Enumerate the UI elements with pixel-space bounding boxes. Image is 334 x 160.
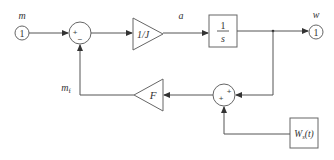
sum2-plus-sign-bottom: +: [219, 94, 224, 103]
sum-junction-2[interactable]: + +: [213, 84, 235, 106]
gain-block-1-over-J[interactable]: 1/J: [133, 18, 163, 50]
integrator-denominator: s: [221, 33, 225, 44]
sum2-plus-sign-right: +: [227, 87, 232, 96]
feedback-branch-line: [236, 31, 273, 95]
feedback-line-mf: [80, 45, 134, 95]
disturbance-block[interactable]: Ws(t): [290, 118, 318, 148]
input-port[interactable]: 1: [15, 26, 29, 40]
disturbance-label: Ws(t): [294, 129, 313, 140]
integrator-numerator: 1: [221, 20, 226, 31]
output-label-w: w: [313, 9, 320, 20]
sum-junction-1[interactable]: + −: [69, 22, 91, 44]
sum1-minus-sign: −: [78, 35, 83, 44]
signal-label-a: a: [179, 10, 184, 21]
input-port-number: 1: [20, 28, 25, 39]
gain2-label: F: [149, 89, 157, 101]
output-port[interactable]: 1: [309, 25, 323, 39]
block-diagram: 1 m + − 1/J a 1 s 1 w + +: [0, 0, 334, 160]
gain1-label: 1/J: [137, 29, 150, 40]
disturbance-line: [224, 107, 290, 134]
gain-block-F[interactable]: F: [134, 79, 163, 111]
output-port-number: 1: [314, 27, 319, 38]
input-label-m: m: [18, 10, 25, 21]
integrator-block[interactable]: 1 s: [209, 15, 237, 47]
feedback-label-mf: mf: [61, 82, 71, 95]
